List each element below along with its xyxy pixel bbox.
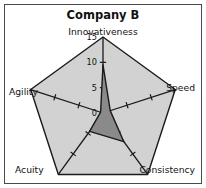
tick-label-10: 10 <box>87 57 97 67</box>
radar-chart: Company B Innovativeness Speed Consisten… <box>5 5 201 183</box>
axis-label-acuity: Acuity <box>15 164 44 175</box>
chart-title: Company B <box>67 8 140 22</box>
chart-frame: Company B Innovativeness Speed Consisten… <box>0 0 206 188</box>
chart-plate: Company B Innovativeness Speed Consisten… <box>4 4 202 184</box>
axis-label-speed: Speed <box>166 82 195 93</box>
axis-label-agility: Agility <box>9 86 38 97</box>
axis-label-consistency: Consistency <box>139 164 195 175</box>
tick-label-0: 0 <box>92 108 97 118</box>
tick-label-5: 5 <box>92 83 97 93</box>
axis-label-innovativeness: Innovativeness <box>68 26 138 37</box>
tick-label-15: 15 <box>87 32 97 42</box>
